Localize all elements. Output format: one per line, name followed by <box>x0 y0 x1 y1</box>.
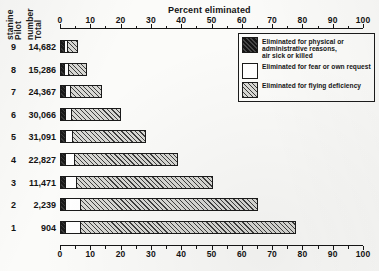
legend-swatch-diagonal-hatch-icon <box>242 82 258 98</box>
legend-label-line: Eliminated for flying deficiency <box>262 82 361 89</box>
x-tick-mark-45 <box>196 246 197 249</box>
x-tick-mark-10 <box>90 24 91 28</box>
x-tick-mark-25 <box>136 26 137 29</box>
x-tick-mark-15 <box>105 26 106 29</box>
bar-stanine-6 <box>60 108 121 121</box>
x-tick-mark-60 <box>242 246 243 250</box>
x-tick-mark-15 <box>105 246 106 249</box>
x-tick-mark-20 <box>121 24 122 28</box>
bar-segment-flying-deficiency <box>69 64 86 75</box>
x-tick-mark-50 <box>212 24 213 28</box>
x-tick-mark-45 <box>196 26 197 29</box>
x-tick-mark-95 <box>348 26 349 29</box>
row-label-stanine: 9 <box>2 42 16 52</box>
x-tick-mark-90 <box>333 24 334 28</box>
pilot-stanine-elimination-chart: stanine Pilot number Total Percent elimi… <box>0 0 379 271</box>
x-axis-tick-labels-top: 0102030405060708090100 <box>0 15 379 27</box>
legend: Eliminated for physical oradministrative… <box>238 33 375 102</box>
row-label-total-number: 11,471 <box>16 178 56 188</box>
x-tick-mark-70 <box>272 24 273 28</box>
row-label-total-number: 15,286 <box>16 65 56 75</box>
row-label-total-number: 14,682 <box>16 42 56 52</box>
x-tick-mark-55 <box>227 26 228 29</box>
x-tick-mark-65 <box>257 26 258 29</box>
x-tick-mark-75 <box>287 246 288 249</box>
x-tick-label-40: 40 <box>176 249 186 259</box>
bar-segment-flying-deficiency <box>72 109 120 120</box>
x-tick-mark-0 <box>60 24 61 28</box>
row-label-stanine: 3 <box>2 178 16 188</box>
bar-stanine-8 <box>60 63 87 76</box>
x-axis-tick-labels-bottom: 0102030405060708090100 <box>0 249 379 261</box>
row-label-total-number: 904 <box>16 223 56 233</box>
row-label-total-number: 24,367 <box>16 87 56 97</box>
row-label-stanine: 8 <box>2 65 16 75</box>
x-tick-label-60: 60 <box>237 249 247 259</box>
bar-segment-flying-deficiency <box>71 86 102 97</box>
row-label-stanine: 7 <box>2 87 16 97</box>
bar-segment-fear-own-request <box>66 154 75 165</box>
bar-stanine-9 <box>60 40 78 53</box>
x-tick-mark-5 <box>75 26 76 29</box>
bar-segment-fear-own-request <box>66 222 81 233</box>
x-axis-line-top <box>60 28 363 29</box>
row-label-stanine: 2 <box>2 200 16 210</box>
x-tick-label-30: 30 <box>146 249 156 259</box>
x-tick-mark-30 <box>151 24 152 28</box>
bar-segment-flying-deficiency <box>68 41 77 52</box>
x-tick-mark-20 <box>121 246 122 250</box>
legend-swatch-dark-crosshatch-icon <box>242 37 258 53</box>
x-tick-label-10: 10 <box>85 249 95 259</box>
x-tick-mark-75 <box>287 26 288 29</box>
row-label-total-number: 22,827 <box>16 155 56 165</box>
bar-segment-fear-own-request <box>66 177 77 188</box>
x-tick-label-70: 70 <box>267 249 277 259</box>
x-tick-mark-55 <box>227 246 228 249</box>
bar-stanine-4 <box>60 153 178 166</box>
bar-segment-flying-deficiency <box>75 154 177 165</box>
x-tick-label-90: 90 <box>328 249 338 259</box>
bar-stanine-2 <box>60 198 258 211</box>
legend-item: Eliminated for physical oradministrative… <box>242 37 371 60</box>
x-tick-label-50: 50 <box>207 249 217 259</box>
bar-stanine-5 <box>60 130 146 143</box>
row-label-stanine: 4 <box>2 155 16 165</box>
x-tick-label-20: 20 <box>116 249 126 259</box>
row-label-total-number: 2,239 <box>16 200 56 210</box>
bar-stanine-3 <box>60 176 213 189</box>
x-tick-mark-30 <box>151 246 152 250</box>
legend-label: Eliminated for physical oradministrative… <box>262 37 344 60</box>
x-tick-mark-85 <box>318 246 319 249</box>
x-tick-mark-70 <box>272 246 273 250</box>
x-tick-mark-40 <box>181 24 182 28</box>
row-label-stanine: 1 <box>2 223 16 233</box>
x-tick-label-100: 100 <box>356 249 370 259</box>
x-tick-mark-60 <box>242 24 243 28</box>
row-label-total-number: 30,066 <box>16 110 56 120</box>
x-tick-mark-65 <box>257 246 258 249</box>
legend-item: Eliminated for flying deficiency <box>242 82 371 98</box>
legend-label-line: air sick or killed <box>262 52 344 59</box>
bar-segment-fear-own-request <box>66 199 81 210</box>
x-tick-mark-35 <box>166 26 167 29</box>
bar-segment-flying-deficiency <box>77 177 212 188</box>
bar-segment-flying-deficiency <box>81 199 257 210</box>
x-tick-mark-50 <box>212 246 213 250</box>
x-tick-mark-95 <box>348 246 349 249</box>
legend-swatch-white-blank-icon <box>242 63 258 79</box>
x-tick-mark-35 <box>166 246 167 249</box>
x-tick-mark-0 <box>60 246 61 250</box>
legend-label-line: Eliminated for fear or own request <box>262 63 371 70</box>
bar-stanine-7 <box>60 85 102 98</box>
bar-stanine-1 <box>60 221 296 234</box>
x-tick-mark-25 <box>136 246 137 249</box>
x-tick-mark-100 <box>363 246 364 250</box>
x-tick-mark-80 <box>302 246 303 250</box>
legend-item: Eliminated for fear or own request <box>242 63 371 79</box>
x-tick-mark-85 <box>318 26 319 29</box>
row-label-total-number: 31,091 <box>16 132 56 142</box>
row-label-stanine: 6 <box>2 110 16 120</box>
bar-segment-flying-deficiency <box>81 222 295 233</box>
legend-label: Eliminated for fear or own request <box>262 63 371 71</box>
x-tick-label-80: 80 <box>298 249 308 259</box>
